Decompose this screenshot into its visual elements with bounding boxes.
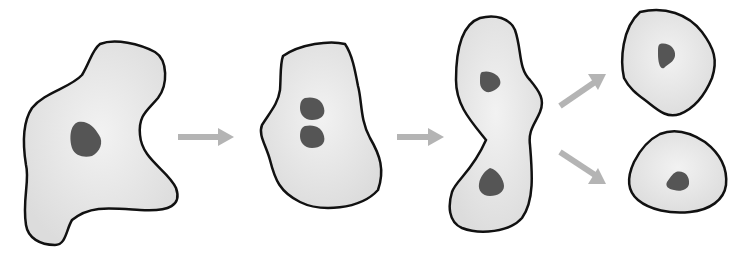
arrow-to-daughter-bottom xyxy=(560,152,606,184)
arrow-stage2-to-stage3 xyxy=(397,128,444,146)
daughter-cell-top xyxy=(622,10,714,115)
cell-membrane xyxy=(450,17,542,232)
mitosis-diagram xyxy=(0,0,745,253)
parent-cell xyxy=(24,42,178,245)
cytokinesis-cell xyxy=(450,17,542,232)
cell-membrane xyxy=(261,43,381,208)
dividing-cell xyxy=(261,43,381,208)
arrow-to-daughter-top xyxy=(560,74,606,106)
daughter-cell-bottom xyxy=(629,131,726,212)
arrow-stage1-to-stage2 xyxy=(178,128,234,146)
